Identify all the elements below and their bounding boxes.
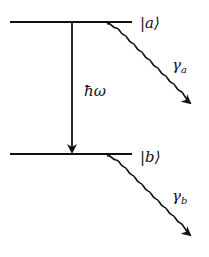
level-a-label: |a⟩ bbox=[140, 14, 160, 32]
decay-b-label: γb bbox=[172, 187, 187, 206]
transition-label: ħω bbox=[84, 82, 106, 100]
energy-level-diagram: |a⟩ |b⟩ ħω γa γb bbox=[0, 0, 209, 257]
decay-a-label: γa bbox=[172, 56, 187, 75]
level-b-label: |b⟩ bbox=[140, 148, 161, 166]
